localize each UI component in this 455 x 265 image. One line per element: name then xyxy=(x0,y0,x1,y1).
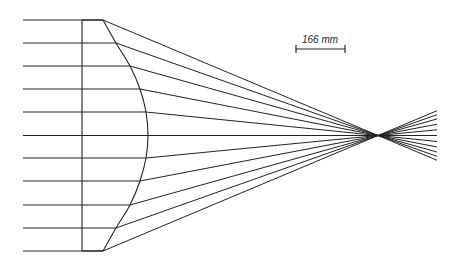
refracted-ray xyxy=(130,66,437,152)
refracted-ray xyxy=(103,20,437,160)
refracted-ray xyxy=(116,115,437,228)
ray-diagram: 166 mm xyxy=(0,0,455,265)
refracted-ray xyxy=(130,119,437,205)
scale-bar: 166 mm xyxy=(296,34,345,53)
refracted-ray xyxy=(146,130,437,158)
refracted-ray xyxy=(103,111,437,251)
refracted-ray xyxy=(146,112,437,141)
refracted-rays xyxy=(103,20,437,251)
scale-bar-label: 166 mm xyxy=(302,34,338,45)
refracted-ray xyxy=(116,43,437,156)
incoming-rays xyxy=(23,20,148,251)
refracted-ray xyxy=(140,124,437,181)
